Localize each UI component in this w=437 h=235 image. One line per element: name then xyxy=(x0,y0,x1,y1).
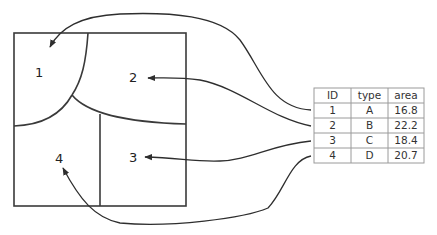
table-header-type: type xyxy=(358,89,381,101)
link-arrow-row2-to-region2 xyxy=(148,78,311,126)
region-label-3: 3 xyxy=(129,150,137,165)
region-table-link-diagram: 1 2 3 4 ID type area 1 A 16.8 2 B 22.2 3… xyxy=(0,0,437,235)
table-header-id: ID xyxy=(327,89,338,101)
table-cell-type: D xyxy=(365,149,373,161)
table-cell-type: A xyxy=(366,104,374,116)
region-label-2: 2 xyxy=(129,70,137,85)
table-cell-id: 3 xyxy=(329,134,336,146)
region-label-1: 1 xyxy=(35,65,43,80)
boundary-2-34 xyxy=(72,95,186,124)
boundary-1-4 xyxy=(14,95,72,126)
table-cell-area: 16.8 xyxy=(394,104,417,116)
boundary-1-2 xyxy=(72,33,88,95)
table-cell-id: 2 xyxy=(329,119,336,131)
table-cell-id: 1 xyxy=(329,104,336,116)
table-cell-id: 4 xyxy=(329,149,336,161)
attribute-table: ID type area 1 A 16.8 2 B 22.2 3 C 18.4 … xyxy=(314,88,424,163)
table-header-area: area xyxy=(394,89,417,101)
table-cell-area: 22.2 xyxy=(394,119,417,131)
table-cell-type: B xyxy=(366,119,373,131)
link-arrow-row3-to-region3 xyxy=(145,141,311,161)
table-cell-type: C xyxy=(366,134,373,146)
link-arrow-row1-to-region1 xyxy=(50,13,311,110)
table-cell-area: 20.7 xyxy=(394,149,417,161)
region-label-4: 4 xyxy=(55,151,63,166)
table-cell-area: 18.4 xyxy=(394,134,418,146)
